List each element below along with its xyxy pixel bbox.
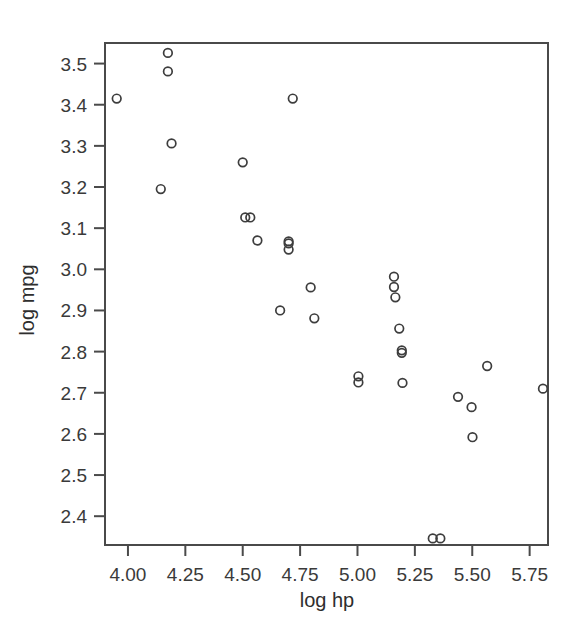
x-tick-label: 4.00: [109, 564, 146, 585]
x-tick-label: 5.50: [454, 564, 491, 585]
y-tick-label: 3.0: [61, 259, 87, 280]
scatter-plot-figure: 4.004.254.504.755.005.255.505.75 2.42.52…: [0, 0, 582, 638]
figure-background: [0, 0, 582, 638]
y-tick-label: 3.5: [61, 54, 87, 75]
y-tick-label: 2.8: [61, 342, 87, 363]
x-tick-label: 4.50: [224, 564, 261, 585]
y-tick-label: 2.5: [61, 465, 87, 486]
x-tick-label: 5.00: [339, 564, 376, 585]
y-tick-label: 2.9: [61, 300, 87, 321]
x-tick-label: 5.25: [396, 564, 433, 585]
plot-canvas: 4.004.254.504.755.005.255.505.75 2.42.52…: [0, 0, 582, 638]
x-tick-label: 4.25: [167, 564, 204, 585]
y-tick-label: 2.4: [61, 506, 88, 527]
y-tick-label: 3.2: [61, 177, 87, 198]
x-tick-label: 4.75: [282, 564, 319, 585]
x-tick-label: 5.75: [511, 564, 548, 585]
y-tick-label: 3.3: [61, 136, 87, 157]
y-tick-label: 2.6: [61, 424, 87, 445]
y-tick-label: 2.7: [61, 383, 87, 404]
x-axis-title: log hp: [300, 589, 355, 611]
y-tick-label: 3.4: [61, 95, 88, 116]
y-tick-label: 3.1: [61, 218, 87, 239]
y-axis-title: log mpg: [16, 264, 38, 335]
